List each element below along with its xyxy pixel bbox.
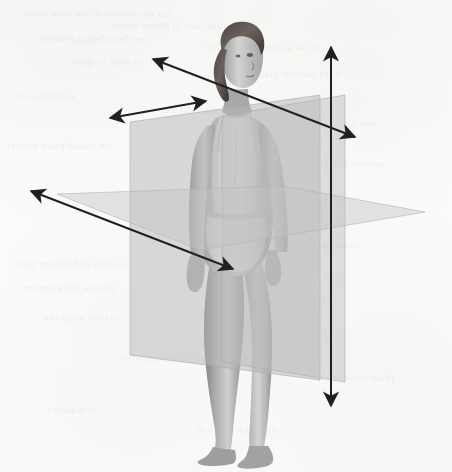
anatomical-planes-figure: the movements of the body occurabout axe…: [0, 0, 452, 472]
transverse-horizontal-plane: Transverse (horizontal) plane: [57, 186, 425, 250]
figure-eye: [247, 53, 253, 57]
anatomical-planes-group: Frontal (coronal) planeSagittal (median)…: [57, 95, 425, 382]
figure-eye-far: [236, 54, 241, 57]
figure-right-foot: [237, 446, 273, 469]
figure-left-foot: [198, 447, 236, 466]
figure-graphics: Frontal (coronal) planeSagittal (median)…: [0, 0, 452, 472]
